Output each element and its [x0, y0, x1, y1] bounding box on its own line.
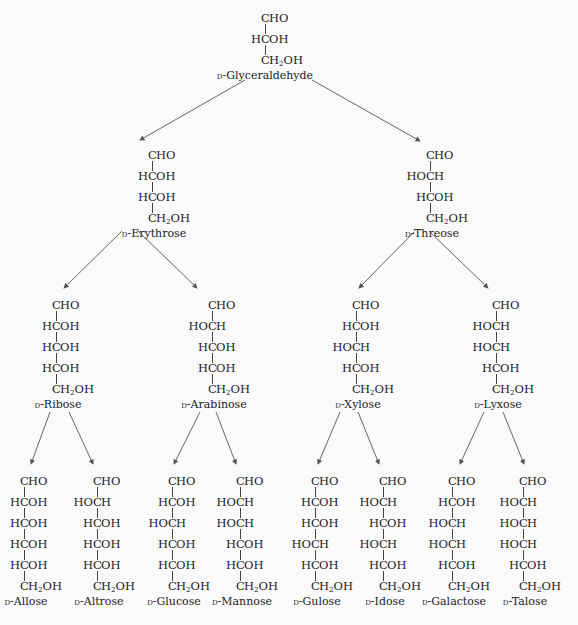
right-substituent: OH [269, 31, 288, 47]
backbone-carbon: C [20, 578, 28, 594]
right-substituent: HO [319, 473, 338, 489]
right-substituent: OH [244, 536, 263, 552]
backbone-carbon: C [311, 578, 319, 594]
left-substituent: H [438, 557, 448, 573]
molecule-name-lyxose: d-Lyxose [474, 398, 522, 411]
left-substituent: H [10, 557, 20, 573]
name-text: -Idose [371, 595, 405, 608]
right-substituent: OH [28, 536, 47, 552]
name-text: -Altrose [80, 595, 124, 608]
left-substituent: H [251, 31, 261, 47]
left-substituent: H [509, 557, 519, 573]
name-text: -Ribose [40, 398, 81, 411]
left-substituent: HO [360, 536, 379, 552]
right-substituent: OH [176, 494, 195, 510]
right-substituent: H [527, 515, 537, 531]
left-substituent: HO [473, 318, 492, 334]
right-substituent: OH [216, 360, 235, 376]
molecule-name-talose: d-Talose [503, 595, 547, 608]
left-substituent: HO [217, 515, 236, 531]
arrow-threose-to-xylose [359, 232, 414, 288]
left-substituent: H [42, 339, 52, 355]
left-substituent: H [369, 515, 379, 531]
left-substituent: H [416, 189, 426, 205]
left-substituent: HO [333, 339, 352, 355]
left-substituent: H [42, 360, 52, 376]
left-substituent: H [83, 536, 93, 552]
right-substituent: HO [216, 297, 235, 313]
molecule-name-xylose: d-Xylose [335, 398, 380, 411]
backbone-carbon: C [492, 381, 500, 397]
right-substituent: HO [527, 473, 546, 489]
left-substituent: H [226, 536, 236, 552]
right-substituent: H [216, 318, 226, 334]
left-substituent: H [10, 494, 20, 510]
left-substituent: HO [217, 494, 236, 510]
right-substituent: H [244, 515, 254, 531]
molecule-name-arabinose: d-Arabinose [181, 398, 247, 411]
left-substituent: H [42, 318, 52, 334]
right-substituent: OH [319, 557, 338, 573]
left-substituent: H [369, 557, 379, 573]
left-substituent: HO [473, 339, 492, 355]
backbone-carbon: C [148, 210, 156, 226]
molecule-name-altrose: d-Altrose [74, 595, 123, 608]
left-substituent: H [198, 339, 208, 355]
name-text: -Glyceraldehyde [222, 69, 313, 82]
molecule-name-ribose: d-Ribose [35, 398, 82, 411]
right-substituent: OH [387, 515, 406, 531]
left-substituent: H [301, 494, 311, 510]
arrow-ribose-to-altrose [69, 412, 93, 464]
right-substituent: OH [176, 557, 195, 573]
right-substituent: HO [244, 473, 263, 489]
right-substituent: H [387, 494, 397, 510]
arrow-arabinose-to-glucose [174, 412, 200, 464]
right-substituent: HO [28, 473, 47, 489]
backbone-carbon: C [93, 578, 101, 594]
aldose-tree-diagram: CHOCHOHCH2OHd-GlyceraldehydeCHOCHOHCHOHC… [0, 0, 578, 625]
right-substituent: OH [28, 557, 47, 573]
right-substituent: HO [269, 10, 288, 26]
right-substituent: OH [456, 494, 475, 510]
backbone-carbon: C [352, 381, 360, 397]
right-substituent: H [500, 339, 510, 355]
backbone-carbon: C [52, 381, 60, 397]
backbone-carbon: C [448, 578, 456, 594]
right-substituent: OH [319, 494, 338, 510]
backbone-carbon: C [168, 578, 176, 594]
right-substituent: OH [456, 557, 475, 573]
molecule-name-mannose: d-Mannose [212, 595, 272, 608]
right-substituent: OH [60, 339, 79, 355]
right-substituent: H [101, 494, 111, 510]
left-substituent: HO [149, 515, 168, 531]
right-substituent: HO [500, 297, 519, 313]
arrow-erythrose-to-ribose [64, 231, 122, 288]
right-substituent: OH [156, 168, 175, 184]
right-substituent: OH [360, 360, 379, 376]
molecule-name-glucose: d-Glucose [147, 595, 201, 608]
left-substituent: H [10, 536, 20, 552]
left-substituent: H [198, 360, 208, 376]
right-substituent: H [500, 318, 510, 334]
right-substituent: OH [216, 339, 235, 355]
right-substituent: OH [60, 318, 79, 334]
left-substituent: HO [292, 536, 311, 552]
right-substituent: H [176, 515, 186, 531]
right-substituent: H [527, 494, 537, 510]
name-text: -Allose [10, 595, 47, 608]
arrow-ribose-to-allose [31, 412, 50, 464]
right-substituent: OH [527, 557, 546, 573]
left-substituent: HO [429, 536, 448, 552]
name-text: -Lyxose [480, 398, 522, 411]
right-substituent: H [456, 515, 466, 531]
right-substituent: HO [434, 147, 453, 163]
right-substituent: OH [319, 515, 338, 531]
left-substituent: H [83, 515, 93, 531]
right-substituent: OH [101, 536, 120, 552]
molecule-name-allose: d-Allose [4, 595, 47, 608]
backbone-carbon: C [426, 210, 434, 226]
left-substituent: HO [189, 318, 208, 334]
right-substituent: OH [244, 557, 263, 573]
right-substituent: H [387, 536, 397, 552]
left-substituent: H [482, 360, 492, 376]
